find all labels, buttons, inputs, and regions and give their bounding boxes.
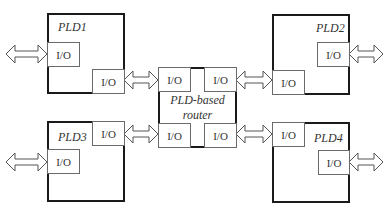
pld4-label: PLD4 [314,131,343,146]
pld2-block: PLD2 I/O I/O [272,14,350,95]
router-io-bottom-right: I/O [204,123,237,148]
bidirectional-arrow-icon [349,153,383,171]
router-io-top-left: I/O [158,67,191,92]
bidirectional-arrow-icon [236,125,272,143]
bidirectional-arrow-icon [124,125,158,143]
router-label: PLD-based router [160,93,235,123]
pld3-io-top-right: I/O [92,121,125,146]
router-label-line1: PLD-based [160,93,235,108]
pld1-io-bottom-right: I/O [92,69,125,94]
pld1-io-left: I/O [47,42,80,67]
pld4-io-top-left: I/O [272,122,305,147]
bidirectional-arrow-icon [349,45,383,63]
bidirectional-arrow-icon [124,71,158,89]
pld4-block: PLD4 I/O I/O [272,122,350,203]
pld2-label: PLD2 [316,21,345,36]
router-io-bottom-left: I/O [158,123,191,148]
router-block: I/O I/O PLD-based router I/O I/O [158,67,237,148]
bidirectional-arrow-icon [6,45,47,63]
router-label-line2: router [160,108,235,123]
bidirectional-arrow-icon [6,153,47,171]
router-io-top-right: I/O [204,67,237,92]
pld1-label: PLD1 [58,20,87,35]
pld3-io-left: I/O [47,149,80,174]
pld3-label: PLD3 [58,130,87,145]
pld2-io-right: I/O [317,42,350,67]
pld4-io-right: I/O [318,150,350,175]
pld1-block: PLD1 I/O I/O [47,13,125,94]
bidirectional-arrow-icon [236,71,272,89]
pld2-io-bottom-left: I/O [272,70,305,95]
pld3-block: PLD3 I/O I/O [47,121,125,202]
